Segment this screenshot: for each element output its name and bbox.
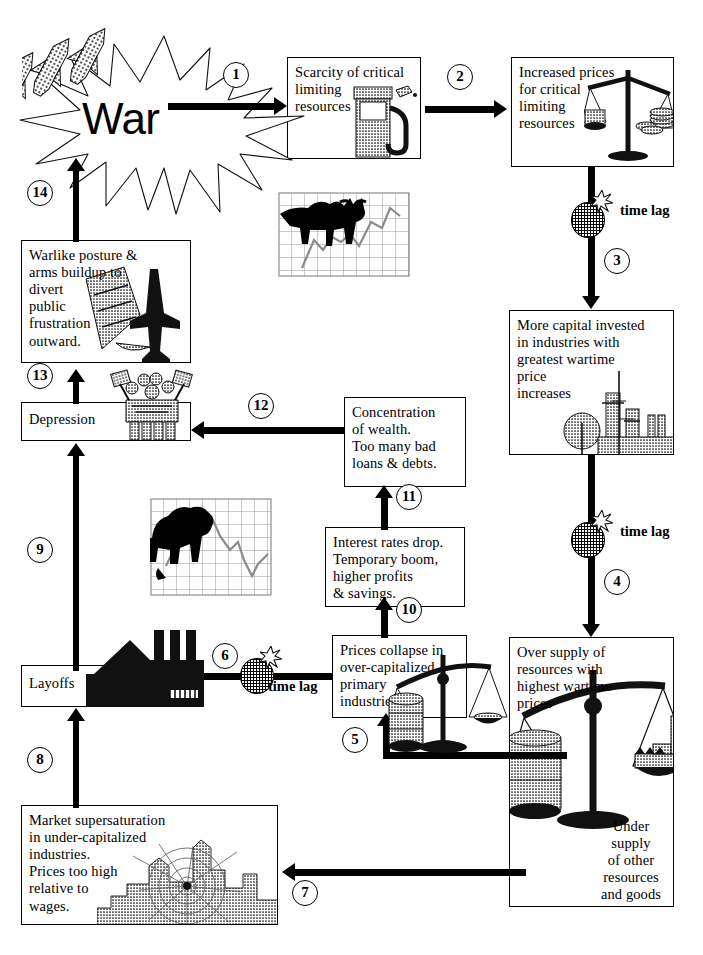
time-lag-label-6: time lag (268, 679, 318, 694)
time-lag-label-3: time lag (620, 203, 670, 218)
node-collapse-label: Prices collapse in over-capitalized prim… (333, 636, 466, 710)
node-market[interactable]: Market supersaturation in under-capitali… (21, 805, 278, 925)
step-9: 9 (27, 537, 53, 563)
diagram-canvas: War Scarcity of critical limiting resour… (0, 0, 703, 955)
arrow-5-horizontal (383, 752, 567, 759)
arrow-5-head (377, 713, 395, 726)
node-interest[interactable]: Interest rates drop. Temporary boom, hig… (325, 527, 465, 607)
step-12: 12 (248, 393, 274, 419)
arrow-14-head (67, 158, 85, 171)
arrow-2-head (494, 100, 507, 118)
step-8: 8 (27, 747, 53, 773)
bull-market-chart-icon (278, 192, 410, 277)
node-wealth[interactable]: Concentration of wealth. Too many bad lo… (344, 397, 466, 487)
step-13: 13 (27, 363, 53, 389)
arrow-10-head (375, 597, 393, 610)
node-capital[interactable]: More capital invested in industries with… (509, 310, 674, 455)
step-5: 5 (342, 727, 368, 753)
node-depression-label: Depression (22, 403, 190, 428)
node-interest-label: Interest rates drop. Temporary boom, hig… (326, 528, 464, 602)
node-warlike[interactable]: Warlike posture & arms buildup to divert… (21, 240, 191, 363)
arrow-8-head (67, 708, 85, 721)
arrow-6-head (184, 667, 197, 685)
arrow-1-head (274, 97, 287, 115)
node-wealth-label: Concentration of wealth. Too many bad lo… (345, 398, 465, 472)
node-prices[interactable]: Increased prices for critical limiting r… (511, 57, 674, 167)
arrow-11 (381, 494, 388, 530)
war-label: War (82, 94, 160, 144)
node-oversupply[interactable]: Over supply of resources with highest wa… (509, 637, 674, 907)
step-2: 2 (447, 64, 473, 90)
arrow-1 (168, 103, 276, 110)
node-collapse[interactable]: Prices collapse in over-capitalized prim… (332, 635, 467, 718)
arrow-5-vertical (383, 723, 390, 755)
bomb-spark-icon (591, 510, 613, 532)
time-lag-bomb-4 (571, 516, 615, 560)
arrow-3-head (582, 296, 600, 309)
node-market-label: Market supersaturation in under-capitali… (22, 806, 277, 915)
step-3: 3 (604, 248, 630, 274)
bear-market-chart-icon (150, 498, 272, 596)
arrow-13-head (67, 369, 85, 382)
arrow-12 (203, 427, 345, 434)
arrow-8 (73, 718, 79, 808)
step-11: 11 (396, 484, 422, 510)
step-4: 4 (604, 569, 630, 595)
arrow-10 (381, 606, 388, 638)
node-oversupply-sublabel: Under supply of other resources and good… (588, 818, 674, 904)
arrow-14 (73, 168, 79, 242)
step-14: 14 (27, 180, 53, 206)
bomb-spark-icon (591, 190, 613, 212)
bomb-spark-icon (260, 646, 282, 668)
node-capital-label: More capital invested in industries with… (510, 311, 673, 403)
arrow-12-head (191, 421, 204, 439)
time-lag-bomb-3 (571, 196, 615, 240)
node-depression[interactable]: Depression (21, 402, 191, 441)
node-scarcity[interactable]: Scarcity of critical limiting resources (287, 57, 421, 159)
arrow-9-head (67, 443, 85, 456)
arrow-11-head (375, 485, 393, 498)
arrow-7-head (282, 863, 295, 881)
node-layoffs[interactable]: Layoffs (21, 665, 176, 707)
node-layoffs-label: Layoffs (22, 666, 175, 692)
step-1: 1 (223, 62, 249, 88)
step-10: 10 (396, 597, 422, 623)
time-lag-label-4: time lag (620, 524, 670, 539)
node-warlike-label: Warlike posture & arms buildup to divert… (22, 241, 190, 350)
arrow-4-head (582, 624, 600, 637)
arrow-2 (425, 106, 496, 113)
node-prices-label: Increased prices for critical limiting r… (512, 58, 673, 132)
arrow-9 (73, 453, 79, 671)
node-scarcity-label: Scarcity of critical limiting resources (288, 58, 420, 115)
explosion-star-icon (14, 28, 314, 218)
step-6: 6 (212, 643, 238, 669)
step-7: 7 (292, 880, 318, 906)
arrow-7 (294, 869, 526, 876)
node-oversupply-label: Over supply of resources with highest wa… (510, 638, 673, 712)
